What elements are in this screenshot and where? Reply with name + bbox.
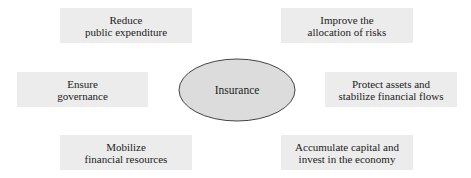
node-line1: Reduce	[110, 14, 143, 26]
node-line1: Mobilize	[106, 141, 146, 153]
node-line1: Protect assets and	[352, 78, 430, 90]
node-mobilize-financial-resources: Mobilize financial resources	[60, 135, 192, 170]
node-line2: financial resources	[85, 153, 168, 165]
node-line2: stabilize financial flows	[338, 90, 443, 102]
node-line2: allocation of risks	[308, 26, 387, 38]
node-improve-allocation-of-risks: Improve the allocation of risks	[281, 8, 413, 43]
center-label: Insurance	[178, 58, 296, 122]
node-line1: Accumulate capital and	[295, 141, 399, 153]
node-accumulate-capital: Accumulate capital and invest in the eco…	[281, 135, 413, 170]
node-line1: Improve the	[320, 14, 373, 26]
node-ensure-governance: Ensure governance	[17, 72, 148, 107]
node-line2: public expenditure	[85, 26, 167, 38]
node-reduce-public-expenditure: Reduce public expenditure	[60, 8, 192, 43]
node-line2: invest in the economy	[299, 153, 396, 165]
node-line2: governance	[57, 90, 108, 102]
center-node-insurance: Insurance	[178, 58, 296, 122]
node-line1: Ensure	[67, 78, 98, 90]
node-protect-assets: Protect assets and stabilize financial f…	[325, 72, 457, 107]
